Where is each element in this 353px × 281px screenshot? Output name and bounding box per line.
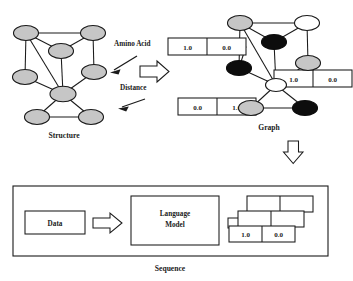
structure-nodes xyxy=(13,26,107,125)
distance-pointer-head xyxy=(118,107,129,112)
structure-node-s7 xyxy=(25,110,50,125)
feature-box-right-cell-0: 1.0 xyxy=(289,76,298,84)
arrow-data-to-model xyxy=(93,213,122,233)
output-stack-row-front: 1.0 0.0 xyxy=(229,226,295,242)
graph-node-g3 xyxy=(262,35,287,50)
output-stack-row-middle xyxy=(238,211,304,227)
figure-root: Structure Amino Acid Distance xyxy=(0,0,353,281)
structure-node-s6 xyxy=(50,86,76,102)
output-stack-row-back xyxy=(247,196,313,212)
language-model-label-line1: Language xyxy=(160,210,190,218)
graph-node-g7 xyxy=(239,101,264,116)
graph-node-g5 xyxy=(296,56,321,71)
output-stack-cell-0: 1.0 xyxy=(241,231,250,239)
graph-node-g8 xyxy=(293,101,318,116)
structure-caption: Structure xyxy=(48,131,80,140)
output-stack: 1.0 0.0 xyxy=(229,196,313,242)
graph-node-g4 xyxy=(227,61,252,76)
sequence-caption: Sequence xyxy=(155,264,186,273)
structure-node-s4 xyxy=(13,70,38,85)
structure-node-s8 xyxy=(79,110,104,125)
graph-node-g6 xyxy=(266,79,287,92)
distance-annotation: Distance xyxy=(118,84,146,112)
arrow-structure-to-graph xyxy=(140,61,169,82)
amino-acid-label: Amino Acid xyxy=(114,40,151,48)
graph-panel: 1.0 0.0 1.0 0.0 0.0 1.0 xyxy=(168,16,352,133)
graph-node-g1 xyxy=(228,16,253,31)
amino-acid-pointer-head xyxy=(110,69,121,74)
structure-node-s2 xyxy=(81,26,106,41)
arrow-sequence-to-graph xyxy=(284,141,304,164)
feature-box-bottom-left-cell-0: 0.0 xyxy=(193,104,202,112)
sequence-panel: Data Language Model xyxy=(13,186,328,273)
structure-node-s1 xyxy=(14,26,39,41)
output-stack-cell-1: 0.0 xyxy=(274,231,283,239)
graph-node-g2 xyxy=(295,16,320,31)
data-box-label: Data xyxy=(48,220,63,228)
amino-acid-pointer-line xyxy=(114,56,137,70)
distance-label: Distance xyxy=(120,84,146,92)
structure-node-s3 xyxy=(49,44,74,59)
data-box: Data xyxy=(25,211,85,234)
graph-caption: Graph xyxy=(258,123,280,132)
feature-box-right-cell-1: 0.0 xyxy=(328,76,337,84)
language-model-label-line2: Model xyxy=(165,221,185,229)
structure-panel: Structure xyxy=(13,26,107,141)
distance-pointer-line xyxy=(122,99,145,107)
language-model-box: Language Model xyxy=(131,196,219,245)
feature-box-top-left-cell-0: 1.0 xyxy=(183,44,192,52)
feature-box-top-left-cell-1: 0.0 xyxy=(222,44,231,52)
structure-node-s5 xyxy=(82,65,107,80)
